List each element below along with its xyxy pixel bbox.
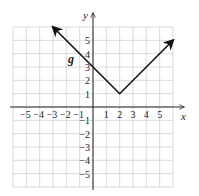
y-tick-label: −2 [79, 129, 90, 140]
y-tick-label: 1 [85, 89, 90, 100]
y-tick-label: 5 [85, 35, 90, 46]
y-axis-label: y [82, 9, 88, 21]
y-tick-label: −3 [79, 142, 90, 153]
x-tick-label: −4 [33, 109, 44, 120]
function-label-g: g [67, 52, 74, 66]
x-axis-label: x [180, 110, 186, 122]
y-tick-label: 2 [85, 75, 90, 86]
y-tick-label: −5 [79, 169, 90, 180]
x-tick-label: 4 [144, 109, 149, 120]
x-tick-label: −2 [60, 109, 71, 120]
x-tick-label: 5 [157, 109, 162, 120]
x-tick-label: 3 [130, 109, 135, 120]
x-tick-labels: −5−4−3−2−112345 [20, 109, 162, 120]
x-tick-label: −3 [47, 109, 58, 120]
x-tick-label: 2 [117, 109, 122, 120]
x-tick-label: 1 [104, 109, 109, 120]
y-tick-label: 4 [85, 49, 90, 60]
y-tick-label: −1 [79, 115, 90, 126]
coordinate-plane: x y −5−4−3−2−112345 54321−1−2−3−4−5 g [0, 0, 199, 196]
y-tick-label: −4 [79, 155, 90, 166]
x-tick-label: −5 [20, 109, 31, 120]
